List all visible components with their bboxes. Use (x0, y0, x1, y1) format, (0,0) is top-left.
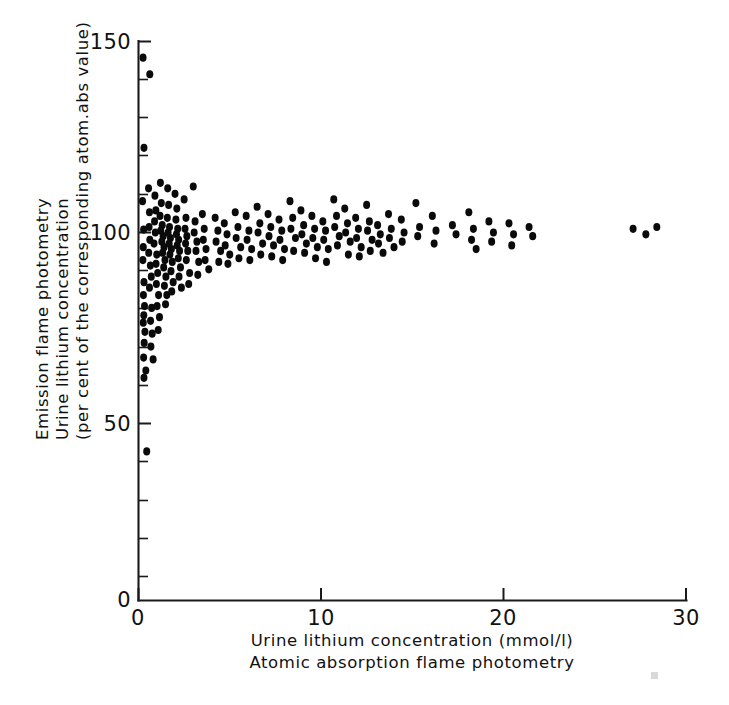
data-point (212, 214, 219, 222)
data-point (182, 214, 189, 222)
data-point (630, 225, 637, 233)
data-point (141, 328, 148, 336)
data-point (470, 225, 477, 233)
data-point (276, 236, 283, 244)
data-point (347, 238, 354, 246)
x-axis-ticks (139, 588, 687, 601)
data-point (156, 313, 163, 321)
data-point (172, 216, 179, 224)
data-point (191, 228, 198, 236)
data-point (194, 271, 201, 279)
data-point (186, 269, 193, 277)
data-point (303, 239, 310, 247)
data-point (169, 258, 176, 266)
data-point (233, 234, 240, 242)
data-point (140, 54, 147, 62)
data-point (270, 241, 277, 249)
data-point (345, 250, 352, 258)
data-point (416, 223, 423, 231)
data-point (153, 260, 160, 268)
x-tick-label-10: 10 (307, 606, 335, 630)
data-point (147, 317, 154, 325)
data-point (182, 239, 189, 247)
data-point (202, 256, 209, 264)
data-point (224, 230, 231, 238)
scan-artifact (651, 672, 658, 679)
data-point (508, 241, 515, 249)
y-tick-label-100: 100 (90, 221, 131, 245)
data-point (160, 263, 167, 271)
data-point (290, 247, 297, 255)
data-point (140, 243, 147, 251)
data-point (245, 227, 252, 235)
data-point (222, 241, 229, 249)
data-point (363, 201, 370, 209)
data-point (276, 216, 283, 224)
data-point (287, 225, 294, 233)
data-point (375, 239, 382, 247)
x-axis-title-line2: Atomic absorption flame photometry (249, 653, 574, 672)
data-point (183, 256, 190, 264)
x-tick-label-30: 30 (672, 606, 700, 630)
data-point (449, 221, 456, 229)
data-point (158, 199, 165, 207)
data-point (642, 230, 649, 238)
data-point (140, 278, 147, 286)
data-point (165, 201, 172, 209)
data-point (473, 245, 480, 253)
data-point (155, 326, 162, 334)
data-point (185, 280, 192, 288)
data-point (488, 238, 495, 246)
y-axis-title-line1: Emission flame photometry (33, 198, 52, 440)
data-point (309, 234, 316, 242)
data-point (154, 302, 161, 310)
data-point (140, 144, 147, 152)
data-point (147, 342, 154, 350)
data-point (490, 228, 497, 236)
data-point (311, 225, 318, 233)
data-point (201, 225, 208, 233)
data-point (401, 228, 408, 236)
y-axis-title-line2: Urine lithium concentration (53, 198, 72, 440)
data-point (193, 238, 200, 246)
data-point (374, 221, 381, 229)
data-point (289, 214, 296, 222)
data-point (431, 239, 438, 247)
data-point (364, 227, 371, 235)
data-point (145, 184, 152, 192)
data-point (140, 374, 147, 382)
x-axis-title-line1: Urine lithium concentration (mmol/l) (251, 631, 574, 650)
data-point (432, 227, 439, 235)
data-point (159, 249, 166, 257)
data-point (358, 243, 365, 251)
data-point (149, 330, 156, 338)
data-point (256, 219, 263, 227)
data-point (192, 247, 199, 255)
data-point (278, 227, 285, 235)
data-point (221, 219, 228, 227)
data-point (300, 221, 307, 229)
data-point (142, 366, 149, 374)
data-point (175, 254, 182, 262)
data-point (141, 302, 148, 310)
data-point (148, 273, 155, 281)
data-point (172, 190, 179, 198)
y-tick-label-0: 0 (117, 588, 131, 612)
data-point (353, 234, 360, 242)
data-point (214, 227, 221, 235)
data-point (341, 204, 348, 212)
scatter-points-group (139, 54, 660, 456)
data-point (265, 232, 272, 240)
data-point (259, 239, 266, 247)
data-point (505, 219, 512, 227)
data-point (356, 252, 363, 260)
data-point (190, 182, 197, 190)
data-point (145, 249, 152, 257)
data-point (297, 206, 304, 214)
data-point (388, 225, 395, 233)
data-point (173, 204, 180, 212)
data-point (244, 236, 251, 244)
data-point (157, 212, 164, 220)
data-point (312, 254, 319, 262)
data-point (248, 245, 255, 253)
